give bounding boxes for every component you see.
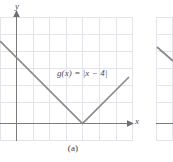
adjacent-panel-sliver	[156, 17, 173, 141]
y-axis	[13, 10, 20, 141]
grid-lines	[0, 17, 133, 141]
curve-g-of-x	[0, 41, 129, 124]
x-axis-label: x	[135, 116, 139, 126]
figure-caption: (a)	[0, 143, 146, 154]
y-axis-label: y	[15, 1, 19, 11]
figure-panel-a: y x g(x) = |x − 4| (a)	[0, 0, 173, 162]
graph-svg	[0, 0, 173, 162]
function-equation-label: g(x) = |x − 4|	[57, 68, 107, 78]
